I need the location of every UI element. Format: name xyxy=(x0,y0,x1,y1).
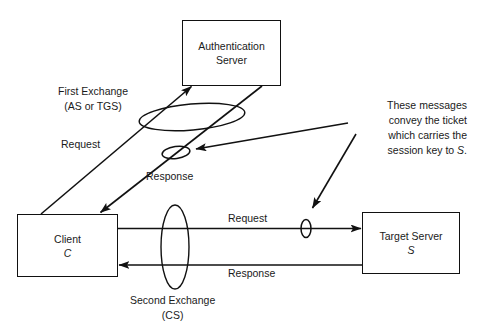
kerberos-exchange-diagram: Authentication Server Client C Target Se… xyxy=(0,0,477,328)
second-exchange-request-label: Request xyxy=(228,212,267,225)
ticket-annotation-line4-prefix: session key to xyxy=(388,144,457,156)
first-exchange-grouping-ellipse xyxy=(138,99,246,134)
client-identifier-label: C xyxy=(64,246,72,260)
ticket-annotation-line2: convey the ticket xyxy=(387,113,467,128)
target-server-label-line1: Target Server xyxy=(379,229,442,243)
ticket-annotation-line4: session key to S. xyxy=(387,143,467,158)
note-pointer-left-arrow xyxy=(196,123,348,149)
authentication-server-node: Authentication Server xyxy=(182,20,281,86)
authentication-server-label-line2: Server xyxy=(216,53,247,67)
second-exchange-caption-line1: Second Exchange xyxy=(130,293,215,308)
authentication-server-label-line1: Authentication xyxy=(198,39,265,53)
client-label-line1: Client xyxy=(54,232,81,246)
second-exchange-caption-line2: (CS) xyxy=(130,308,215,323)
first-exchange-response-label: Response xyxy=(146,170,193,183)
first-exchange-caption-line2: (AS or TGS) xyxy=(58,99,128,114)
note-pointer-down-arrow xyxy=(313,134,357,208)
first-exchange-caption: First Exchange (AS or TGS) xyxy=(58,84,128,113)
target-server-node: Target Server S xyxy=(362,212,460,274)
ticket-annotation-line3: which carries the xyxy=(387,128,467,143)
ticket-annotation-note: These messages convey the ticket which c… xyxy=(387,98,467,158)
second-exchange-caption: Second Exchange (CS) xyxy=(130,293,215,322)
client-node: Client C xyxy=(17,214,118,277)
ticket-annotation-line4-suffix: . xyxy=(464,144,467,156)
second-exchange-response-label: Response xyxy=(228,267,275,280)
first-exchange-request-label: Request xyxy=(61,138,100,151)
target-server-identifier-label: S xyxy=(407,243,414,257)
second-exchange-grouping-ellipse xyxy=(161,205,189,289)
ticket-annotation-line1: These messages xyxy=(387,98,467,113)
first-exchange-caption-line1: First Exchange xyxy=(58,84,128,99)
